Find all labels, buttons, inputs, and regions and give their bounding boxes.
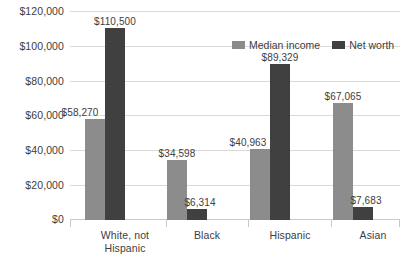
y-axis-tick-label: $40,000 — [0, 145, 64, 156]
bar-net-worth-hispanic — [270, 64, 290, 220]
data-label-net-worth-black: $6,314 — [175, 197, 225, 208]
legend-label: Median income — [249, 39, 320, 51]
data-label-median-income-hispanic: $40,963 — [223, 137, 273, 148]
x-axis-ticks — [70, 220, 400, 228]
y-axis-tick-label: $20,000 — [0, 180, 64, 191]
legend-swatch-icon — [332, 41, 345, 49]
y-axis-labels: $120,000 $100,000 $80,000 $60,000 $40,00… — [0, 0, 64, 265]
bar-net-worth-black — [187, 209, 207, 220]
y-axis-tick-label: $120,000 — [0, 6, 64, 17]
x-axis-category-line: Hispanic — [75, 242, 175, 255]
x-axis-labels: White, not Hispanic Black Hispanic Asian — [70, 229, 400, 263]
x-axis-tick — [248, 220, 249, 227]
x-axis-tick — [399, 220, 400, 227]
legend-label: Net worth — [349, 39, 394, 51]
bar-net-worth-asian — [353, 207, 373, 220]
x-axis-tick — [70, 220, 71, 227]
data-label-median-income-black: $34,598 — [152, 148, 202, 159]
bar-median-income-black — [167, 160, 187, 220]
data-label-net-worth-hispanic: $89,329 — [255, 52, 305, 63]
x-axis-category-asian: Asian — [323, 229, 417, 242]
x-axis-tick — [331, 220, 332, 227]
gridline-120000 — [70, 11, 400, 12]
legend-swatch-icon — [232, 41, 245, 49]
bar-net-worth-white-not-hispanic — [105, 28, 125, 220]
data-label-net-worth-asian: $7,683 — [341, 195, 391, 206]
data-label-median-income-white-not-hispanic: $58,270 — [55, 107, 105, 118]
y-axis-tick-label: $100,000 — [0, 41, 64, 52]
data-label-median-income-asian: $67,065 — [318, 91, 368, 102]
bar-chart: $120,000 $100,000 $80,000 $60,000 $40,00… — [0, 0, 417, 265]
y-axis-tick-label: $0 — [0, 214, 64, 225]
bar-median-income-white-not-hispanic — [85, 119, 105, 220]
legend: Median income Net worth — [232, 39, 394, 51]
x-axis-tick — [166, 220, 167, 227]
bar-median-income-hispanic — [250, 149, 270, 220]
x-axis-category-line: Asian — [323, 229, 417, 242]
legend-item-median-income[interactable]: Median income — [232, 39, 320, 51]
data-label-net-worth-white-not-hispanic: $110,500 — [90, 16, 140, 27]
y-axis-tick-label: $80,000 — [0, 76, 64, 87]
legend-item-net-worth[interactable]: Net worth — [332, 39, 394, 51]
